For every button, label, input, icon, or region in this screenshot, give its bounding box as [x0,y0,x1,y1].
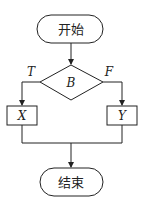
false-branch-label: F [104,65,114,79]
true-branch-label: T [27,65,36,79]
process-x-label: X [17,109,27,123]
decision-label: B [66,76,76,90]
end-node: 结束 [40,168,103,196]
start-node: 开始 [37,15,103,43]
edge-merge [22,125,122,143]
start-label: 开始 [58,22,84,37]
flowchart: 开始 B T F X Y 结束 [0,0,141,200]
process-y-node: Y [107,106,137,125]
process-x-node: X [7,106,37,125]
process-y-label: Y [118,109,127,123]
end-label: 结束 [58,175,84,190]
decision-node: B [40,65,103,100]
edge-decision-y [103,82,122,105]
edge-decision-x [22,82,40,105]
